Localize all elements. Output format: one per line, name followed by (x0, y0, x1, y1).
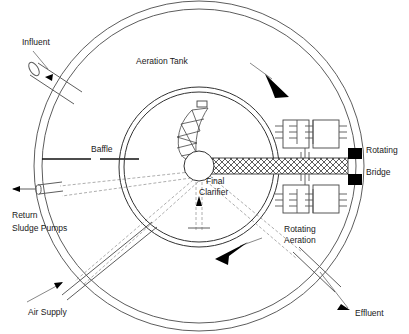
label-rotating-bridge-line1: Rotating (366, 145, 398, 155)
label-rotating-aeration-line2: Aeration (284, 235, 316, 245)
label-return-sludge-line1: Return (12, 210, 38, 220)
return-sludge-pipe (12, 182, 63, 194)
leader-influent (33, 51, 48, 69)
label-return-sludge-line2: Sludge Pumps (12, 223, 67, 233)
air-supply-pipe (62, 222, 157, 300)
label-influent: Influent (22, 37, 51, 47)
leader-effluent (320, 272, 350, 310)
bridge-end-block-upper (348, 148, 362, 159)
influent-pipe (27, 61, 82, 104)
label-rotating-aeration-line1: Rotating (284, 224, 316, 234)
aerator-upper (275, 120, 347, 158)
label-baffle: Baffle (91, 144, 113, 154)
sludge-return-pipes (60, 172, 302, 285)
label-air-supply: Air Supply (28, 307, 67, 317)
rotating-bridge (196, 158, 348, 174)
rotation-arrow-upper (250, 63, 289, 98)
rotation-arrow-lower (215, 238, 262, 265)
diagram-canvas: Influent Aeration Tank Baffle Final Clar… (0, 0, 409, 334)
label-rotating-bridge-line2: Bridge (366, 167, 391, 177)
label-final-clarifier-line2: Clarifier (199, 187, 228, 197)
aerator-lower (275, 174, 347, 213)
wastewater-treatment-diagram: Influent Aeration Tank Baffle Final Clar… (0, 0, 409, 334)
leader-air-supply (27, 282, 63, 302)
label-effluent: Effluent (355, 308, 384, 318)
label-final-clarifier-line1: Final (206, 176, 225, 186)
label-aeration-tank: Aeration Tank (136, 56, 189, 66)
bridge-end-block-lower (348, 174, 362, 185)
